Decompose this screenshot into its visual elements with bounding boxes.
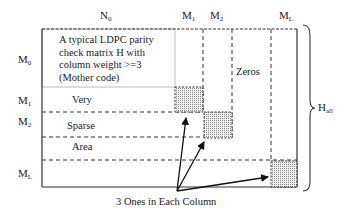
mother-code-description: A typical LDPC parity check matrix H wit… xyxy=(59,34,154,84)
caption: 3 Ones in Each Column xyxy=(116,197,216,208)
mother-code-line: (Mother code) xyxy=(59,72,154,85)
col-label-m1: M1 xyxy=(182,10,195,23)
ones-block-m2 xyxy=(204,112,232,138)
row-label-m1: M1 xyxy=(18,95,31,108)
region-word-very: Very xyxy=(72,95,92,106)
h-all-brace-icon xyxy=(303,25,315,191)
ldpc-matrix-diagram: N0 M1 M2 ML M0 M1 M2 ML A typical LDPC p… xyxy=(0,0,347,218)
mother-code-line: check matrix H with xyxy=(59,47,154,60)
h-all-label: Hall xyxy=(318,102,333,115)
diagram-canvas xyxy=(0,0,347,218)
row-label-m0: M0 xyxy=(18,54,31,67)
col-label-n0: N0 xyxy=(100,10,111,23)
col-label-ml: ML xyxy=(279,10,293,23)
col-label-m2: M2 xyxy=(210,10,223,23)
mother-code-line: A typical LDPC parity xyxy=(59,34,154,47)
region-word-area: Area xyxy=(72,142,92,153)
ones-block-ml xyxy=(271,161,297,187)
arrow-to-m1-block xyxy=(177,118,186,191)
row-label-m2: M2 xyxy=(18,116,31,129)
arrow-to-m2-block xyxy=(177,142,204,191)
arrow-to-ml-block xyxy=(177,177,268,191)
mother-code-line: column weight >=3 xyxy=(59,59,154,72)
row-label-ml: ML xyxy=(18,168,32,181)
ones-block-m1 xyxy=(175,87,203,112)
zeros-label: Zeros xyxy=(236,67,260,78)
region-word-sparse: Sparse xyxy=(67,121,95,132)
